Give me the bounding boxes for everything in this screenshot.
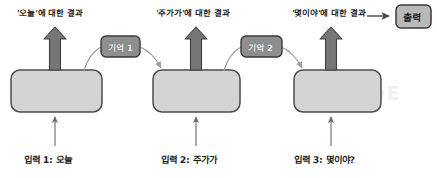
input-label-2: 입력 2: 주가가 <box>161 155 217 165</box>
input-label-1: 입력 1: 오늘 <box>24 155 72 165</box>
result-arrow-3 <box>320 27 342 70</box>
input-label-3: 입력 3: 몇이야? <box>294 155 355 165</box>
memory-label-1: 기억 1 <box>108 41 134 53</box>
memory-curve-out-1 <box>140 47 161 68</box>
memory-label-2: 기억 2 <box>248 41 274 53</box>
rnn-cell-1 <box>11 70 102 112</box>
rnn-sequence-diagram: GUIDE <box>0 0 437 178</box>
result-label-1: '오늘'에 대한 결과 <box>17 9 83 18</box>
result-arrow-1 <box>44 27 66 70</box>
result-label-2: '주가가'에 대한 결과 <box>156 9 230 18</box>
rnn-cell-2 <box>153 70 240 112</box>
result-label-3: '몇이야'에 대한 결과 <box>292 9 366 18</box>
output-label: 출력 <box>403 10 422 24</box>
result-arrow-2 <box>185 27 207 70</box>
rnn-cell-3 <box>294 70 381 112</box>
memory-curve-out-2 <box>281 47 302 68</box>
diagram-vector-layer: GUIDE <box>0 0 437 178</box>
